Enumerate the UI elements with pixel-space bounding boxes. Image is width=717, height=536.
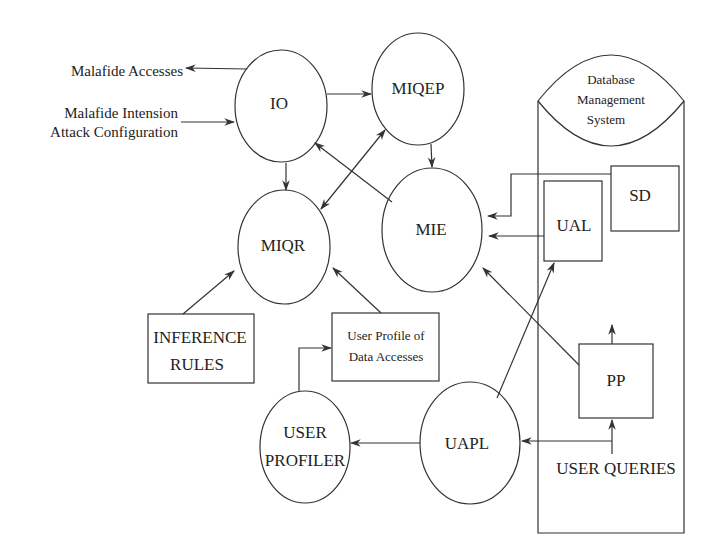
miqep-label: MIQEP <box>392 79 445 98</box>
dbms-label-line3: System <box>587 112 625 127</box>
malafide-intension-label-line1: Malafide Intension <box>64 105 178 121</box>
user-profile-label-line1: User Profile of <box>347 328 425 343</box>
user-profiler-node: USER PROFILER <box>260 391 350 503</box>
edge-profiler-to-userprofile <box>299 348 331 391</box>
ual-label: UAL <box>557 216 592 235</box>
pp-label: PP <box>607 371 626 390</box>
ual-node: UAL <box>544 181 602 261</box>
inference-rules-label-line2: RULES <box>170 355 224 374</box>
uapl-node: UAPL <box>420 382 520 504</box>
inference-rules-node: INFERENCE RULES <box>148 314 254 383</box>
edge-mie-to-io <box>315 143 392 202</box>
miqr-node: MIQR <box>238 190 330 304</box>
system-architecture-diagram: Database Management System SD UAL IO MIQ… <box>0 0 717 536</box>
user-profiler-label-line2: PROFILER <box>265 451 346 470</box>
mie-label: MIE <box>415 220 446 239</box>
edge-userprofile-to-miqr <box>333 268 381 313</box>
user-profile-node: User Profile of Data Accesses <box>332 313 439 381</box>
pp-node: PP <box>579 344 653 418</box>
malafide-accesses-label: Malafide Accesses <box>71 63 183 79</box>
user-queries-label: USER QUERIES <box>556 459 675 478</box>
edge-inference-to-miqr <box>183 271 234 314</box>
io-node: IO <box>235 50 327 162</box>
edge-miqr-miqep <box>321 130 385 209</box>
dbms-label-line2: Management <box>577 92 645 107</box>
miqr-label: MIQR <box>261 236 306 255</box>
sd-node: SD <box>611 166 679 231</box>
miqep-node: MIQEP <box>372 33 464 145</box>
user-profiler-label-line1: USER <box>283 423 327 442</box>
io-label: IO <box>270 94 288 113</box>
mie-node: MIE <box>382 168 482 292</box>
sd-label: SD <box>629 186 651 205</box>
edge-io-to-malafide-accesses <box>186 68 247 69</box>
inference-rules-label-line1: INFERENCE <box>153 328 247 347</box>
user-profile-label-line2: Data Accesses <box>349 349 424 364</box>
dbms-label-line1: Database <box>587 72 635 87</box>
malafide-intension-label-line2: Attack Configuration <box>50 124 178 140</box>
uapl-label: UAPL <box>445 434 489 453</box>
edge-miqep-to-mie <box>431 144 432 167</box>
